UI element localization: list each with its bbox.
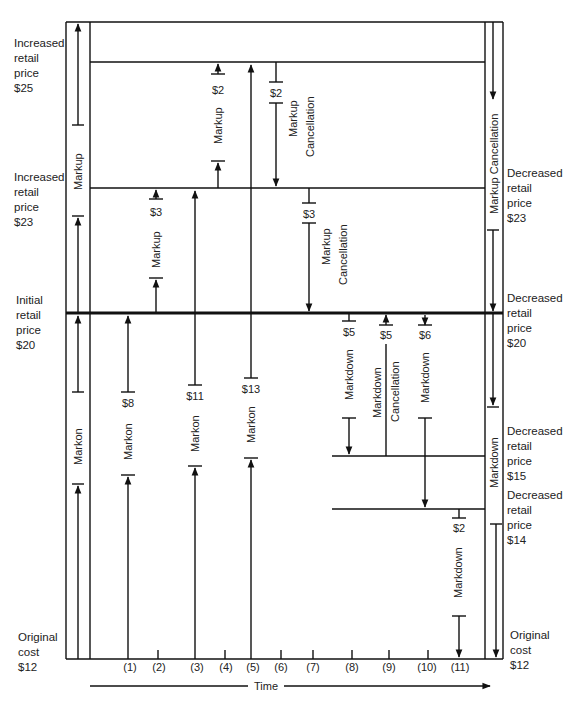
col9-markdown-label: Markdown: [371, 367, 383, 418]
col6-markup-label: Markup: [287, 100, 299, 137]
tick-label-10: (10): [417, 661, 437, 673]
amount-col6: $2: [270, 87, 282, 99]
time-axis-label: Time: [254, 680, 278, 692]
right-markdown-label: Markdown: [488, 437, 500, 488]
tick-label-8: (8): [345, 661, 358, 673]
tick-label-6: (6): [274, 661, 287, 673]
amount-col1: $8: [122, 397, 134, 409]
left-markup-label: Markup: [72, 153, 84, 190]
amount-col9: $5: [380, 329, 392, 341]
tick-label-3: (3): [190, 661, 203, 673]
tick-label-1: (1): [123, 661, 136, 673]
amount-col5: $13: [242, 383, 260, 395]
col1-markon-label: Markon: [122, 423, 134, 460]
amount-col8: $5: [343, 326, 355, 338]
amount-col4: $2: [212, 84, 224, 96]
amount-col2: $3: [150, 206, 162, 218]
tick-label-2: (2): [152, 661, 165, 673]
left-markon-label: Markon: [72, 428, 84, 465]
col7-markup-label: Markup: [320, 228, 332, 265]
tick-label-7: (7): [306, 661, 319, 673]
col6-cancel-label: Cancellation: [304, 96, 316, 157]
tick-label-11: (11): [451, 661, 470, 673]
col9-cancel-label: Cancellation: [389, 361, 401, 422]
right-markup-cancel-label: Markup Cancellation: [488, 114, 500, 214]
time-tick-labels: (1) (2) (3) (4) (5) (6) (7) (8) (9) (10)…: [123, 661, 469, 692]
amount-col10: $6: [419, 329, 431, 341]
col2-markup-label: Markup: [150, 231, 162, 268]
tick-label-4: (4): [219, 661, 232, 673]
amount-col3: $11: [186, 390, 204, 402]
price-change-diagram: Markup Markon Markon Markon Markon Marku…: [0, 0, 571, 702]
tick-label-9: (9): [382, 661, 395, 673]
col3-markon-label: Markon: [189, 415, 201, 452]
amount-labels: $8 $3 $11 $2 $13 $2 $3 $5 $5 $6 $2: [122, 84, 465, 534]
amount-col11: $2: [453, 522, 465, 534]
tick-label-5: (5): [246, 661, 259, 673]
col7-cancel-label: Cancellation: [337, 224, 349, 285]
col5-markon-label: Markon: [245, 406, 257, 443]
col11-markdown-label: Markdown: [452, 547, 464, 598]
col8-markdown-label: Markdown: [343, 349, 355, 400]
vertical-labels: Markup Markon Markon Markon Markon Marku…: [72, 96, 500, 598]
col4-markup-label: Markup: [212, 107, 224, 144]
col10-markdown-label: Markdown: [419, 352, 431, 403]
amount-col7: $3: [303, 208, 315, 220]
